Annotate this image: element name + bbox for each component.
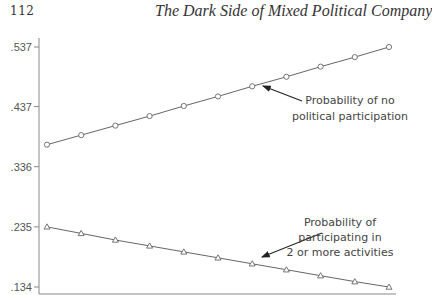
circle-marker [386,44,391,49]
annotation-text: 2 or more activities [287,246,394,259]
circle-marker [215,94,220,99]
circle-marker [147,113,152,118]
y-tick-label: .134 [11,281,32,293]
circle-marker [113,123,118,128]
y-tick-label: .537 [11,41,32,53]
chart-annotations: Probability of nopolitical participation… [262,86,408,259]
circle-marker [284,74,289,79]
circle-marker [79,133,84,138]
annotation-text: participating in [298,231,381,244]
annotation-text: Probability of [304,216,377,229]
circle-marker [352,55,357,60]
circle-marker [181,103,186,108]
annotation-text: Probability of no [305,94,395,107]
circle-marker [44,142,49,147]
y-tick-label: .235 [11,221,32,233]
annotation-text: political participation [292,110,408,123]
y-tick-label: .336 [11,161,32,173]
y-axis-ticks: .537.437.336.235.134 [11,41,39,293]
triangle-marker [44,224,50,229]
annotation-two-or-more: Probability ofparticipating in2 or more … [262,216,394,259]
arrow-icon [263,86,302,101]
circle-marker [250,84,255,89]
y-tick-label: .437 [11,101,32,113]
circle-marker [318,64,323,69]
annotation-no-participation: Probability of nopolitical participation [263,86,408,123]
